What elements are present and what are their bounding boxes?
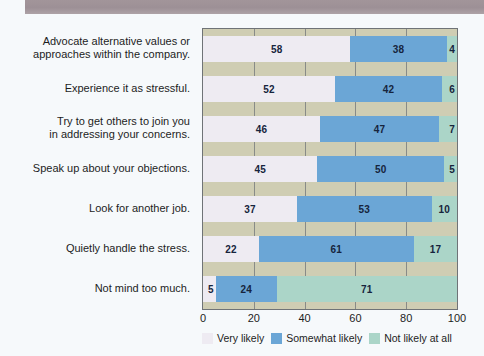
category-label-line: Try to get others to join you (57, 115, 190, 128)
bar-segment: 6 (442, 76, 457, 102)
category-label: Advocate alternative values orapproaches… (0, 28, 196, 68)
bar-segment: 38 (350, 36, 447, 62)
category-label: Try to get others to join youin addressi… (0, 108, 196, 148)
bar-value-label: 6 (449, 84, 455, 95)
legend-swatch-icon (369, 333, 380, 344)
bar-segment: 4 (447, 36, 457, 62)
plot-area: 5838452426464774550537531022611752471 (202, 28, 458, 310)
category-label: Experience it as stressful. (0, 68, 196, 108)
legend-swatch-icon (202, 333, 213, 344)
bar-value-label: 10 (439, 204, 451, 215)
bar-value-label: 5 (449, 164, 455, 175)
x-tick-100: 100 (448, 312, 466, 324)
bar-value-label: 46 (256, 124, 268, 135)
bar-segment: 37 (203, 196, 297, 222)
stacked-bar-chart: Advocate alternative values orapproaches… (0, 14, 484, 356)
bar-segment: 58 (203, 36, 350, 62)
bar-segment: 52 (203, 76, 335, 102)
category-label-line: Advocate alternative values or (43, 35, 190, 48)
bar-segment: 5 (444, 156, 457, 182)
bar-row: 52471 (203, 276, 457, 302)
bar-segment: 22 (203, 236, 259, 262)
x-tick-60: 60 (349, 312, 361, 324)
bar-row: 226117 (203, 236, 457, 262)
bar-value-label: 4 (449, 44, 455, 55)
category-label-line: Not mind too much. (95, 282, 190, 295)
bar-value-label: 5 (208, 284, 214, 295)
bar-segment: 7 (439, 116, 457, 142)
legend-item: Not likely at all (369, 332, 452, 344)
category-label-line: in addressing your concerns. (49, 128, 190, 141)
bar-value-label: 38 (393, 44, 405, 55)
legend-swatch-icon (271, 333, 282, 344)
bar-segment: 42 (335, 76, 442, 102)
bar-segment: 46 (203, 116, 320, 142)
bar-value-label: 7 (449, 124, 455, 135)
bar-segment: 47 (320, 116, 439, 142)
bar-value-label: 61 (331, 244, 343, 255)
bar-segment: 50 (317, 156, 444, 182)
bar-value-label: 17 (430, 244, 442, 255)
bar-value-label: 22 (225, 244, 237, 255)
top-banner (25, 0, 484, 14)
category-label-line: Experience it as stressful. (65, 82, 190, 95)
bar-value-label: 45 (254, 164, 266, 175)
x-axis-tick-labels: 020406080100 (202, 312, 458, 328)
bar-row: 52426 (203, 76, 457, 102)
bar-value-label: 37 (244, 204, 256, 215)
bar-value-label: 58 (271, 44, 283, 55)
bar-value-label: 24 (240, 284, 252, 295)
category-label: Speak up about your objections. (0, 148, 196, 188)
bar-row: 46477 (203, 116, 457, 142)
bar-segment: 53 (297, 196, 432, 222)
chart-legend: Very likelySomewhat likelyNot likely at … (202, 330, 470, 346)
bar-segment: 71 (277, 276, 457, 302)
bar-segment: 5 (203, 276, 216, 302)
bar-value-label: 71 (361, 284, 373, 295)
category-axis-labels: Advocate alternative values orapproaches… (0, 28, 196, 310)
legend-item: Very likely (202, 332, 264, 344)
bar-value-label: 50 (375, 164, 387, 175)
x-tick-40: 40 (298, 312, 310, 324)
legend-label: Very likely (217, 332, 264, 344)
legend-label: Not likely at all (384, 332, 452, 344)
bar-segment: 17 (414, 236, 457, 262)
category-label-line: Speak up about your objections. (33, 162, 190, 175)
category-label-line: approaches within the company. (33, 48, 190, 61)
x-tick-20: 20 (248, 312, 260, 324)
legend-label: Somewhat likely (286, 332, 362, 344)
bar-row: 58384 (203, 36, 457, 62)
bar-segment: 61 (259, 236, 414, 262)
bar-value-label: 52 (263, 84, 275, 95)
bar-value-label: 53 (359, 204, 371, 215)
category-label: Quietly handle the stress. (0, 228, 196, 268)
bar-segment: 10 (432, 196, 457, 222)
category-label: Not mind too much. (0, 268, 196, 308)
category-label: Look for another job. (0, 188, 196, 228)
bar-value-label: 42 (383, 84, 395, 95)
bar-value-label: 47 (374, 124, 386, 135)
category-label-line: Look for another job. (89, 202, 190, 215)
bar-row: 375310 (203, 196, 457, 222)
category-label-line: Quietly handle the stress. (66, 242, 190, 255)
x-tick-80: 80 (400, 312, 412, 324)
legend-item: Somewhat likely (271, 332, 362, 344)
x-tick-0: 0 (200, 312, 206, 324)
bar-row: 45505 (203, 156, 457, 182)
bar-segment: 24 (216, 276, 277, 302)
bar-segment: 45 (203, 156, 317, 182)
